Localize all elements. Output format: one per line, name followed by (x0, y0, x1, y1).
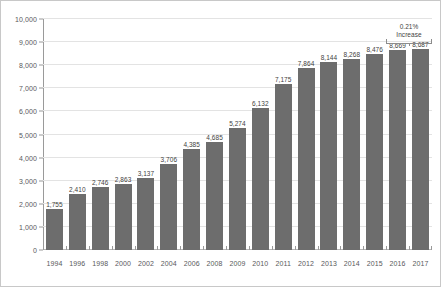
bar-slot: 8,144 (318, 19, 341, 250)
x-axis-tick-label: 2002 (135, 260, 158, 272)
annotation-percent: 0.21% (386, 23, 432, 30)
x-axis-tick-label: 2015 (363, 260, 386, 272)
bar-value-label: 2,863 (115, 176, 132, 183)
x-axis-tick (226, 246, 249, 250)
bar-value-label: 4,385 (183, 141, 200, 148)
bar[interactable] (366, 54, 383, 250)
x-axis-tick-label: 2012 (295, 260, 318, 272)
x-axis-tick (272, 246, 295, 250)
y-axis-tick (39, 42, 43, 43)
x-axis-tick-label: 1998 (89, 260, 112, 272)
annotation-caption: Increase (386, 31, 432, 38)
y-axis-tick-label: 9,000 (19, 39, 37, 46)
bar-value-label: 8,144 (321, 54, 338, 61)
x-axis-tick (249, 246, 272, 250)
x-axis-tick-label: 1996 (66, 260, 89, 272)
x-axis-tick-label: 2008 (203, 260, 226, 272)
bar[interactable] (69, 194, 86, 250)
y-axis-tick (39, 157, 43, 158)
bar[interactable] (46, 209, 63, 250)
y-axis-tick-label: 4,000 (19, 154, 37, 161)
y-axis-tick-label: 0 (33, 247, 37, 254)
bar-slot: 4,685 (203, 19, 226, 250)
y-axis-tick-label: 8,000 (19, 62, 37, 69)
bar[interactable] (137, 178, 154, 250)
bar-slot: 3,137 (135, 19, 158, 250)
x-axis-tick (409, 246, 432, 250)
bar-chart: 01,0002,0003,0004,0005,0006,0007,0008,00… (0, 0, 441, 287)
bar-value-label: 8,476 (366, 46, 383, 53)
bar-slot: 5,274 (226, 19, 249, 250)
bar[interactable] (229, 128, 246, 250)
y-axis-tick (39, 65, 43, 66)
bar[interactable] (206, 142, 223, 250)
bar-value-label: 3,137 (138, 170, 155, 177)
bar-value-label: 8,268 (344, 51, 361, 58)
bar[interactable] (183, 149, 200, 250)
y-axis-tick (39, 134, 43, 135)
bar-slot: 1,755 (43, 19, 66, 250)
annotation-bracket (386, 39, 432, 44)
x-axis-tick (43, 246, 66, 250)
plot-area: 1,7552,4102,7462,8633,1373,7064,3854,685… (43, 19, 432, 250)
bar-slot: 3,706 (157, 19, 180, 250)
x-axis-tick (157, 246, 180, 250)
bar-value-label: 7,864 (298, 60, 315, 67)
bar[interactable] (298, 68, 315, 250)
y-axis-tick (39, 203, 43, 204)
x-axis-tick-label: 2011 (272, 260, 295, 272)
bar-slot: 2,863 (112, 19, 135, 250)
bar-value-label: 6,132 (252, 100, 269, 107)
x-axis-tick-label: 2014 (340, 260, 363, 272)
y-axis-tick (39, 88, 43, 89)
y-axis-tick-label: 6,000 (19, 108, 37, 115)
x-axis-tick (112, 246, 135, 250)
y-axis-tick (39, 250, 43, 251)
x-axis-tick-label: 2006 (180, 260, 203, 272)
y-axis-tick-label: 5,000 (19, 131, 37, 138)
bar-value-label: 3,706 (161, 156, 178, 163)
x-axis-tick (135, 246, 158, 250)
x-axis-tick (66, 246, 89, 250)
x-axis-tick (340, 246, 363, 250)
bar[interactable] (275, 84, 292, 250)
bar[interactable] (320, 62, 337, 250)
bar[interactable] (252, 108, 269, 250)
bar-slot: 2,410 (66, 19, 89, 250)
bar-value-label: 2,746 (92, 179, 109, 186)
bar[interactable] (412, 49, 429, 250)
y-axis-labels: 01,0002,0003,0004,0005,0006,0007,0008,00… (1, 19, 37, 250)
x-axis-tick (89, 246, 112, 250)
x-axis-ticks (43, 246, 432, 250)
bar[interactable] (160, 164, 177, 250)
bar-value-label: 7,175 (275, 76, 292, 83)
y-axis-tick (39, 226, 43, 227)
bar[interactable] (343, 59, 360, 250)
bar-value-label: 2,410 (69, 186, 86, 193)
increase-annotation: 0.21% Increase (386, 23, 432, 44)
x-axis-tick-label: 2000 (112, 260, 135, 272)
bar[interactable] (389, 50, 406, 250)
bar[interactable] (115, 184, 132, 250)
bar[interactable] (92, 187, 109, 250)
x-axis-tick-label: 2017 (409, 260, 432, 272)
x-axis-tick (203, 246, 226, 250)
y-axis-tick (39, 180, 43, 181)
x-axis-tick-label: 2010 (249, 260, 272, 272)
bar-value-label: 4,685 (206, 134, 223, 141)
bar-series: 1,7552,4102,7462,8633,1373,7064,3854,685… (43, 19, 432, 250)
bar-slot: 4,385 (180, 19, 203, 250)
y-axis-tick-label: 10,000 (15, 16, 37, 23)
bar-value-label: 5,274 (229, 120, 246, 127)
y-axis-tick (39, 19, 43, 20)
x-axis-tick (295, 246, 318, 250)
y-axis-tick-label: 1,000 (19, 223, 37, 230)
bar-value-label: 1,755 (46, 201, 63, 208)
bar-slot: 8,476 (363, 19, 386, 250)
bar-slot: 7,175 (272, 19, 295, 250)
x-axis-tick (363, 246, 386, 250)
x-axis-tick-label: 2016 (386, 260, 409, 272)
bar-slot: 2,746 (89, 19, 112, 250)
bar-slot: 8,669 (386, 19, 409, 250)
y-axis-tick-label: 3,000 (19, 177, 37, 184)
